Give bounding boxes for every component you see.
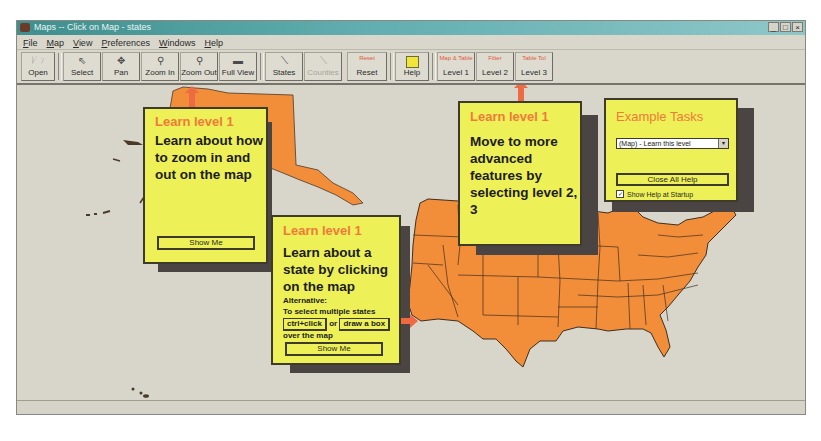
menu-preferences[interactable]: Preferences bbox=[101, 38, 150, 48]
pan-cross-icon: ✥ bbox=[103, 54, 139, 68]
close-button[interactable]: × bbox=[792, 22, 803, 32]
ctrl-click-hint: ctrl+click bbox=[283, 318, 327, 331]
level-2-button[interactable]: Filter Level 2 bbox=[476, 52, 514, 81]
zoom-in-button[interactable]: ⚲ Zoom In bbox=[141, 52, 179, 81]
level2-icon: Filter bbox=[477, 54, 513, 68]
menu-map[interactable]: Map bbox=[47, 38, 65, 48]
show-me-button[interactable]: Show Me bbox=[285, 342, 383, 356]
counties-button[interactable]: ⟍ Counties bbox=[304, 52, 342, 81]
full-view-button[interactable]: ▬ Full View bbox=[219, 52, 257, 81]
menu-file[interactable]: File bbox=[23, 38, 38, 48]
checkbox-checked-icon[interactable]: ✓ bbox=[616, 190, 624, 198]
toolbar-separator bbox=[58, 53, 62, 80]
minimize-button[interactable]: _ bbox=[768, 22, 779, 32]
toolbar-separator bbox=[390, 53, 394, 80]
help-header: Learn level 1 bbox=[155, 114, 234, 129]
help-button[interactable]: Help bbox=[395, 52, 429, 81]
menu-windows[interactable]: Windows bbox=[159, 38, 196, 48]
app-icon bbox=[20, 23, 30, 32]
arrow-to-zoom-out bbox=[189, 92, 195, 107]
help-zoom-panel: Learn level 1 Learn about how to zoom in… bbox=[143, 107, 268, 264]
over-map-text: over the map bbox=[283, 331, 333, 340]
us-silhouette-icon: ▬ bbox=[220, 54, 256, 68]
counties-line-icon: ⟍ bbox=[305, 54, 341, 68]
toolbar: 🗁 Open ⇖ Select ✥ Pan ⚲ Zoom In ⚲ Zoom O… bbox=[17, 51, 805, 85]
pointer-icon: ⇖ bbox=[64, 54, 100, 68]
help-levels-panel: Learn level 1 Move to more advanced feat… bbox=[458, 101, 582, 246]
magnifier-icon: ⚲ bbox=[181, 54, 217, 68]
states-button[interactable]: ⟍ States bbox=[265, 52, 303, 81]
help-header: Learn level 1 bbox=[283, 223, 362, 238]
menu-help[interactable]: Help bbox=[204, 38, 223, 48]
toolbar-separator bbox=[432, 53, 436, 80]
help-state-panel: Learn level 1 Learn about a state by cli… bbox=[271, 215, 401, 365]
title-bar[interactable]: Maps -- Click on Map - states _ □ × bbox=[17, 21, 805, 35]
hawaii-islands bbox=[128, 385, 188, 400]
arrow-to-map bbox=[401, 318, 411, 324]
menu-bar: File Map View Preferences Windows Help bbox=[17, 36, 805, 50]
show-me-button[interactable]: Show Me bbox=[157, 236, 255, 250]
help-body: Learn about how to zoom in and out on th… bbox=[155, 132, 265, 183]
draw-box-hint: draw a box bbox=[339, 318, 390, 331]
help-body: Move to more advanced features by select… bbox=[470, 133, 578, 218]
open-button[interactable]: 🗁 Open bbox=[21, 52, 55, 81]
show-help-at-startup-checkbox[interactable]: ✓ Show Help at Startup bbox=[616, 190, 693, 198]
zoom-out-button[interactable]: ⚲ Zoom Out bbox=[180, 52, 218, 81]
close-all-help-button[interactable]: Close All Help bbox=[616, 173, 729, 186]
level-3-button[interactable]: Table Tol Level 3 bbox=[515, 52, 553, 81]
menu-view[interactable]: View bbox=[73, 38, 92, 48]
maps-window: Maps -- Click on Map - states _ □ × File… bbox=[16, 20, 806, 415]
reset-button[interactable]: Reset Reset bbox=[347, 52, 387, 81]
or-text: or bbox=[329, 319, 337, 328]
chevron-down-icon[interactable]: ▾ bbox=[718, 139, 728, 148]
help-header: Learn level 1 bbox=[470, 109, 549, 124]
example-tasks-select[interactable]: (Map) - Learn this level ▾ bbox=[616, 138, 729, 149]
states-line-icon: ⟍ bbox=[266, 54, 302, 68]
pan-button[interactable]: ✥ Pan bbox=[102, 52, 140, 81]
help-sticky-icon bbox=[406, 56, 419, 68]
toolbar-separator bbox=[260, 53, 264, 80]
example-tasks-panel: Example Tasks (Map) - Learn this level ▾… bbox=[604, 98, 738, 202]
level3-icon: Table Tol bbox=[516, 54, 552, 68]
level1-icon: Map & Table bbox=[438, 54, 474, 68]
folder-icon: 🗁 bbox=[22, 54, 54, 68]
level-1-button[interactable]: Map & Table Level 1 bbox=[437, 52, 475, 81]
magnifier-icon: ⚲ bbox=[142, 54, 178, 68]
select-button[interactable]: ⇖ Select bbox=[63, 52, 101, 81]
maximize-button[interactable]: □ bbox=[780, 22, 791, 32]
example-tasks-header: Example Tasks bbox=[616, 109, 703, 124]
help-body: Learn about a state by clicking on the m… bbox=[283, 244, 401, 295]
map-canvas[interactable]: Learn level 1 Learn about how to zoom in… bbox=[18, 85, 804, 400]
arrow-to-level-buttons bbox=[518, 87, 524, 101]
status-bar bbox=[17, 400, 805, 414]
window-title: Maps -- Click on Map - states bbox=[34, 22, 151, 32]
alternative-text: To select multiple states bbox=[283, 307, 375, 316]
alternative-label: Alternative: bbox=[283, 296, 327, 305]
reset-icon: Reset bbox=[348, 54, 386, 68]
